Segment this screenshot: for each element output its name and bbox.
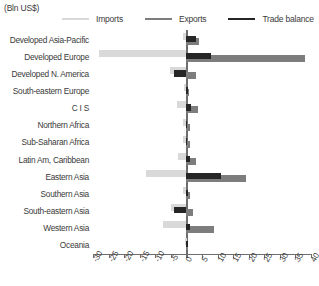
bar-imports: [177, 101, 186, 108]
trade-balance-chart: (Bln US$) ImportsExportsTrade balance De…: [0, 0, 319, 286]
bar-row: [93, 203, 311, 220]
bar-balance: [186, 121, 187, 127]
category-label: Developed N. America: [11, 66, 89, 83]
bar-row: [93, 117, 311, 134]
bar-row: [93, 134, 311, 151]
legend-label: Imports: [96, 14, 123, 24]
bar-imports: [178, 153, 187, 160]
bar-balance: [186, 104, 191, 110]
category-label: Northern Africa: [37, 117, 89, 134]
bar-balance: [174, 70, 186, 76]
bar-row: [93, 100, 311, 117]
bar-exports: [186, 209, 192, 216]
bar-balance: [186, 156, 189, 162]
bar-exports: [186, 72, 195, 79]
legend-item-exports: Exports: [145, 14, 206, 24]
bar-balance: [186, 241, 187, 247]
category-label: Developed Europe: [24, 49, 89, 66]
category-label: Developed Asia-Pacific: [10, 32, 89, 49]
category-axis-labels: Developed Asia-PacificDeveloped EuropeDe…: [0, 32, 89, 254]
bar-exports: [186, 226, 214, 233]
plot-area: [93, 32, 311, 254]
x-axis-tick-label: 5: [200, 255, 210, 263]
x-axis-tick-label: 0: [184, 255, 194, 263]
bar-balance: [186, 53, 211, 59]
bar-row: [93, 83, 311, 100]
category-label: Latin Am, Caribbean: [19, 152, 89, 169]
bar-imports: [146, 170, 186, 177]
bar-balance: [186, 138, 187, 144]
legend-item-trade-balance: Trade balance: [228, 14, 313, 24]
unit-label: (Bln US$): [4, 3, 39, 13]
bar-balance: [186, 87, 187, 93]
category-label: South-eastern Asia: [23, 203, 89, 220]
category-label: Sub-Saharan Africa: [22, 134, 89, 151]
category-label: Southern Asia: [41, 186, 89, 203]
bar-row: [93, 32, 311, 49]
bar-balance: [186, 36, 195, 42]
bar-row: [93, 220, 311, 237]
bar-row: [93, 49, 311, 66]
legend-swatch-icon: [228, 18, 255, 21]
bar-exports: [186, 141, 190, 148]
category-label: Eastern Asia: [45, 169, 89, 186]
bar-balance: [186, 190, 188, 196]
bar-row: [93, 186, 311, 203]
category-label: C I S: [72, 100, 89, 117]
bar-imports: [99, 50, 186, 57]
bar-balance: [186, 224, 189, 230]
category-label: Western Asia: [43, 220, 89, 237]
bar-imports: [163, 221, 186, 228]
category-label: Oceania: [60, 237, 89, 254]
bar-row: [93, 169, 311, 186]
legend-item-imports: Imports: [62, 14, 123, 24]
legend-label: Exports: [179, 14, 206, 24]
chart-legend: ImportsExportsTrade balance: [62, 12, 318, 26]
category-label: South-eastern Europe: [13, 83, 89, 100]
bar-balance: [186, 173, 220, 179]
bar-row: [93, 66, 311, 83]
bar-row: [93, 152, 311, 169]
legend-swatch-icon: [62, 18, 89, 21]
legend-label: Trade balance: [262, 14, 313, 24]
bar-balance: [174, 207, 186, 213]
legend-swatch-icon: [145, 18, 172, 21]
